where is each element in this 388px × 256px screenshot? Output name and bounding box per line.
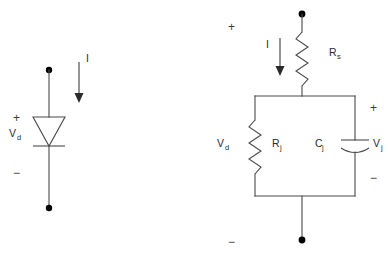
resistor-rj-icon	[249, 120, 261, 174]
current-label: I	[266, 38, 269, 50]
terminal-node-bottom	[299, 237, 306, 244]
total-voltage-label: V	[217, 137, 224, 149]
circuit-figure: I + − V d I	[0, 0, 388, 256]
polarity-plus: +	[13, 111, 20, 125]
diode-voltage-label: V	[9, 127, 16, 139]
terminal-node-bottom	[46, 205, 52, 211]
diode-model-circuit: I R s R j C j V d V j + − + −	[194, 0, 388, 256]
resistor-rs-subscript: s	[337, 52, 341, 61]
outer-polarity-minus: −	[228, 235, 235, 249]
current-label: I	[86, 52, 89, 64]
diode-voltage-subscript: d	[17, 133, 21, 142]
resistor-rs-label: R	[329, 46, 337, 58]
resistor-rs-icon	[296, 32, 308, 86]
junction-polarity-minus: −	[370, 171, 377, 185]
junction-polarity-plus: +	[370, 101, 377, 115]
diode-symbol-circuit: I + − V d	[0, 0, 194, 256]
junction-voltage-label: V	[373, 137, 380, 149]
outer-polarity-plus: +	[228, 20, 235, 34]
junction-voltage-subscript: j	[380, 143, 383, 152]
resistor-rj-subscript: j	[279, 143, 282, 152]
current-arrow-head	[75, 93, 84, 103]
diode-icon	[33, 117, 65, 146]
polarity-minus: −	[13, 166, 20, 180]
capacitor-cj-subscript: j	[321, 143, 324, 152]
total-voltage-subscript: d	[225, 143, 229, 152]
current-arrow-head	[276, 66, 285, 76]
resistor-rj-label: R	[272, 137, 280, 149]
